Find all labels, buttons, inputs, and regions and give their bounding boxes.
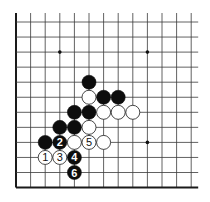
black-stone-disc [97, 90, 111, 104]
white-stone [67, 135, 81, 149]
white-stone-disc [82, 90, 96, 104]
black-stone-disc [82, 105, 96, 119]
white-stone [82, 90, 96, 104]
black-stone [97, 90, 111, 104]
move-number: 4 [71, 151, 78, 163]
black-stone [82, 75, 96, 89]
go-board: 251346 [0, 0, 210, 202]
black-stone [111, 90, 125, 104]
white-stone-disc [111, 105, 125, 119]
white-stone [126, 105, 140, 119]
white-stone: 1 [38, 150, 52, 164]
black-stone: 2 [53, 135, 67, 149]
move-number: 2 [57, 136, 63, 148]
white-stone-disc [82, 120, 96, 134]
white-stone: 5 [82, 135, 96, 149]
white-stone [97, 105, 111, 119]
white-stone-disc [97, 105, 111, 119]
black-stone: 4 [67, 150, 81, 164]
white-stone [111, 105, 125, 119]
white-stone-disc [97, 135, 111, 149]
black-stone [67, 105, 81, 119]
move-number: 3 [57, 151, 63, 163]
black-stone-disc [82, 75, 96, 89]
move-number: 1 [42, 151, 48, 163]
go-board-diagram: 251346 [0, 0, 210, 202]
black-stone: 6 [67, 166, 81, 180]
black-stone [53, 120, 67, 134]
black-stone-disc [38, 135, 52, 149]
star-point [146, 141, 150, 145]
black-stone-disc [67, 120, 81, 134]
white-stone: 3 [53, 150, 67, 164]
white-stone-disc [67, 135, 81, 149]
black-stone-disc [53, 120, 67, 134]
black-stone [38, 135, 52, 149]
black-stone [82, 105, 96, 119]
white-stone [97, 135, 111, 149]
white-stone-disc [126, 105, 140, 119]
black-stone-disc [67, 105, 81, 119]
move-number: 5 [86, 136, 92, 148]
star-point [58, 50, 62, 54]
black-stone [67, 120, 81, 134]
white-stone [82, 120, 96, 134]
move-number: 6 [71, 167, 77, 179]
star-point [146, 50, 150, 54]
black-stone-disc [111, 90, 125, 104]
